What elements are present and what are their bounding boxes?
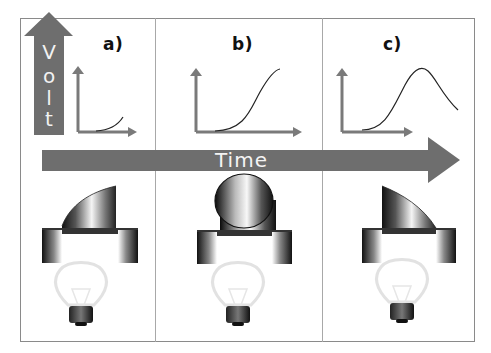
lightbulb-a-icon xyxy=(56,263,107,327)
volt-letter-t: t xyxy=(36,109,62,130)
magnet-b-icon xyxy=(215,174,276,233)
panel-label-c: c) xyxy=(383,34,402,54)
magnet-a-icon xyxy=(62,186,116,230)
panel-label-b: b) xyxy=(232,34,253,54)
coil-b-icon xyxy=(197,230,292,264)
graph-a xyxy=(72,66,137,137)
magnet-c-icon xyxy=(382,186,436,230)
time-label: Time xyxy=(215,148,268,172)
coil-c-icon xyxy=(362,228,456,263)
lightbulb-b-icon xyxy=(213,263,264,327)
panel-label-a: a) xyxy=(103,34,123,54)
lightbulb-c-icon xyxy=(377,260,428,324)
graph-c xyxy=(336,68,458,137)
volt-letter-l: l xyxy=(36,88,62,109)
graph-b xyxy=(190,68,302,137)
volt-letter-o: o xyxy=(36,66,62,87)
volt-letter-v: V xyxy=(36,42,62,63)
coil-a-icon xyxy=(42,228,138,263)
